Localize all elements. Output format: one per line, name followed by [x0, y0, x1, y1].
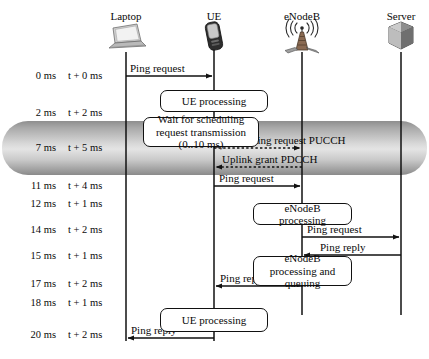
time-absolute: 11 ms [10, 180, 56, 191]
time-absolute: 7 ms [10, 142, 56, 153]
time-relative: t + 1 ms [68, 297, 124, 308]
actor-label-ue: UE [207, 10, 222, 22]
time-absolute: 17 ms [10, 278, 56, 289]
mobile-phone-icon [204, 21, 223, 51]
lifelines-and-arrows [0, 0, 429, 359]
process-box-enodeb-processing: eNodeB processing [253, 203, 352, 225]
process-box-enodeb-processing-queuing: eNodeB processing and queuing [253, 256, 352, 286]
actor-label-enodeb: eNodeB [284, 10, 320, 22]
message-label-ping-reply: Ping reply [320, 241, 366, 253]
message-label-ping-request: Ping request [130, 62, 185, 74]
time-relative: t + 2 ms [68, 329, 124, 340]
actor-label-server: Server [387, 10, 416, 22]
server-icon [389, 22, 413, 49]
time-absolute: 20 ms [10, 329, 56, 340]
cell-tower-icon [285, 19, 319, 53]
message-label-uplink-grant-pdcch: Uplink grant PDCCH [222, 153, 317, 165]
time-relative: t + 1 ms [68, 198, 124, 209]
sequence-diagram: Laptop UE eNodeB Server 0 ms 2 ms 7 ms 1… [0, 0, 429, 359]
process-box-wait-for-scheduling: Wait for scheduling request transmission… [143, 117, 259, 147]
time-relative: t + 4 ms [68, 180, 124, 191]
laptop-icon [109, 24, 146, 48]
time-absolute: 0 ms [10, 70, 56, 81]
time-relative: t + 0 ms [68, 70, 124, 81]
time-absolute: 12 ms [10, 198, 56, 209]
time-absolute: 18 ms [10, 297, 56, 308]
process-box-ue-processing: UE processing [160, 308, 268, 332]
time-absolute: 15 ms [10, 250, 56, 261]
time-absolute: 14 ms [10, 224, 56, 235]
message-label-ping-request: Ping request [219, 172, 274, 184]
time-relative: t + 2 ms [68, 278, 124, 289]
process-box-ue-processing: UE processing [160, 90, 268, 112]
actor-label-laptop: Laptop [110, 10, 141, 22]
time-relative: t + 1 ms [68, 250, 124, 261]
time-relative: t + 2 ms [68, 224, 124, 235]
time-absolute: 2 ms [10, 107, 56, 118]
time-relative: t + 5 ms [68, 142, 124, 153]
time-relative: t + 2 ms [68, 107, 124, 118]
